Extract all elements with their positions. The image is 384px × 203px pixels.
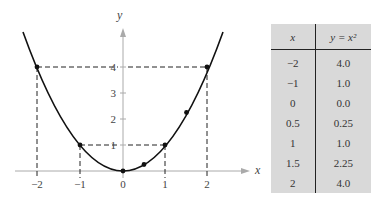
point-1-5 xyxy=(184,110,189,115)
point-0-5 xyxy=(142,162,147,167)
cell-y: 4.0 xyxy=(315,50,371,74)
x-tick-label: −2 xyxy=(31,178,43,190)
cell-y: 1.0 xyxy=(315,73,371,93)
values-table: x y = x² −2 4.0 −1 1.0 0 0.0 0.5 0.25 1 … xyxy=(271,24,371,193)
table-row: 2 4.0 xyxy=(271,173,371,193)
cell-x: −1 xyxy=(271,73,315,93)
cell-x: 0 xyxy=(271,93,315,113)
cell-x: 1 xyxy=(271,133,315,153)
y-axis-arrow-icon xyxy=(120,28,126,37)
cell-y: 0.25 xyxy=(315,113,371,133)
table-row: 1.5 2.25 xyxy=(271,153,371,173)
table-row: 1 1.0 xyxy=(271,133,371,153)
y-tick-label: 1 xyxy=(111,139,117,151)
y-tick-label: 3 xyxy=(111,87,117,99)
cell-y: 1.0 xyxy=(315,133,371,153)
y-tick-label: 2 xyxy=(111,113,117,125)
point-1 xyxy=(163,143,168,148)
column-header-y: y = x² xyxy=(315,24,371,50)
point-neg1 xyxy=(78,143,83,148)
cell-y: 2.25 xyxy=(315,153,371,173)
cell-y: 0.0 xyxy=(315,93,371,113)
x-tick-label: −1 xyxy=(74,178,86,190)
y-axis-label: y xyxy=(116,8,123,22)
y-axis xyxy=(120,28,126,178)
cell-y: 4.0 xyxy=(315,173,371,193)
cell-x: 0.5 xyxy=(271,113,315,133)
x-tick-label: 0 xyxy=(120,178,126,190)
table-header-row: x y = x² xyxy=(271,24,371,50)
cell-x: −2 xyxy=(271,50,315,74)
table-row: 0 0.0 xyxy=(271,93,371,113)
table-row: −1 1.0 xyxy=(271,73,371,93)
x-tick-label: 2 xyxy=(204,178,210,190)
cell-x: 2 xyxy=(271,173,315,193)
x-axis xyxy=(15,168,250,174)
x-axis-label: x xyxy=(254,163,261,177)
point-2 xyxy=(205,65,210,70)
parabola-graph: −2 −1 0 1 2 1 2 3 4 x y xyxy=(0,0,270,203)
point-0 xyxy=(121,169,126,174)
x-tick-label: 1 xyxy=(162,178,168,190)
column-header-x: x xyxy=(271,24,315,50)
table-row: 0.5 0.25 xyxy=(271,113,371,133)
point-neg2 xyxy=(35,65,40,70)
cell-x: 1.5 xyxy=(271,153,315,173)
x-axis-arrow-icon xyxy=(241,168,250,174)
table-row: −2 4.0 xyxy=(271,50,371,74)
y-tick-label: 4 xyxy=(111,61,117,73)
